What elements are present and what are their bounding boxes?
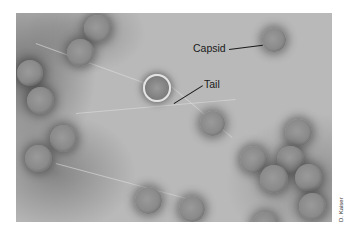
tail-fiber [56,163,191,200]
capsid-particle [179,196,205,222]
capsid-particle [299,193,326,220]
capsid-particle [27,87,54,114]
capsid-particle [84,15,111,42]
capsid-particle [67,39,94,66]
empty-capsid-particle [143,74,171,102]
capsid-particle [262,28,286,52]
capsid-particle [252,212,278,222]
tail-label: Tail [204,78,220,90]
micrograph [16,13,332,222]
capsid-particle [50,125,77,152]
capsid-particle [200,111,225,136]
capsid-label: Capsid [193,42,226,54]
capsid-particle [285,119,312,146]
capsid-particle [260,165,288,193]
photo-credit: D. Kaiser [338,197,344,222]
capsid-particle [25,145,52,172]
capsid-particle [295,164,322,191]
capsid-particle [17,60,43,86]
capsid-particle [135,187,162,214]
